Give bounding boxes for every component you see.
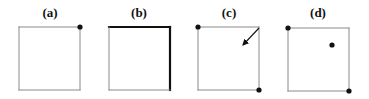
panel-a: (a) <box>19 5 83 90</box>
panel-label: (d) <box>310 5 326 20</box>
panel-d: (d) <box>285 5 351 94</box>
panel-b: (b) <box>109 5 170 90</box>
dot-marker <box>77 24 82 29</box>
figure-diagram: (a)(b)(c)(d) <box>0 0 369 99</box>
dot-marker <box>256 87 261 92</box>
dot-marker <box>195 24 200 29</box>
dot-marker <box>329 42 334 47</box>
panel-label: (c) <box>222 5 236 20</box>
panel-label: (b) <box>131 5 147 20</box>
panel-c: (c) <box>195 5 261 93</box>
arrow-icon <box>243 28 259 45</box>
dot-marker <box>285 25 290 30</box>
panel-label: (a) <box>42 5 57 20</box>
dot-marker <box>346 88 351 93</box>
